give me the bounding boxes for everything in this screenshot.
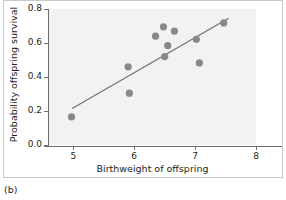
regression-line-segment (72, 18, 228, 108)
data-point (193, 36, 200, 43)
data-point (196, 59, 203, 66)
x-tick-mark (256, 146, 257, 150)
y-axis-line (48, 9, 49, 146)
regression-line (72, 18, 228, 108)
x-tick-mark (73, 146, 74, 150)
x-tick-label: 7 (192, 152, 198, 161)
x-tick-mark (195, 146, 196, 150)
data-point (68, 113, 75, 120)
x-tick-label: 6 (131, 152, 137, 161)
x-tick-label: 8 (253, 152, 259, 161)
data-point (160, 23, 167, 30)
x-tick-mark (134, 146, 135, 150)
plot-area (49, 9, 256, 145)
figure-panel: 0.00.20.40.60.8 5678 Birthweight of offs… (0, 0, 286, 200)
y-tick-label: 0.0 (28, 140, 42, 149)
data-point (164, 42, 171, 49)
y-tick-mark (44, 9, 48, 10)
data-point (126, 90, 133, 97)
data-point (152, 33, 159, 40)
y-tick-mark (44, 145, 48, 146)
x-axis-title: Birthweight of offspring (49, 163, 256, 174)
y-tick-label: 0.6 (28, 38, 42, 47)
data-point (171, 28, 178, 35)
data-points (68, 19, 227, 120)
y-axis-title-wrap: Probability offspring survival (0, 0, 14, 178)
figure-caption: (b) (4, 184, 17, 195)
y-tick-mark (44, 77, 48, 78)
y-tick-label: 0.2 (28, 106, 42, 115)
y-tick-mark (44, 43, 48, 44)
y-tick-mark (44, 111, 48, 112)
plot-svg (49, 9, 256, 145)
y-tick-label: 0.8 (28, 4, 42, 13)
x-tick-label: 5 (70, 152, 76, 161)
data-point (161, 53, 168, 60)
y-axis-title: Probability offspring survival (8, 5, 19, 145)
data-point (220, 19, 227, 26)
y-tick-label: 0.4 (28, 72, 42, 81)
data-point (125, 63, 132, 70)
x-axis-line (44, 146, 282, 147)
